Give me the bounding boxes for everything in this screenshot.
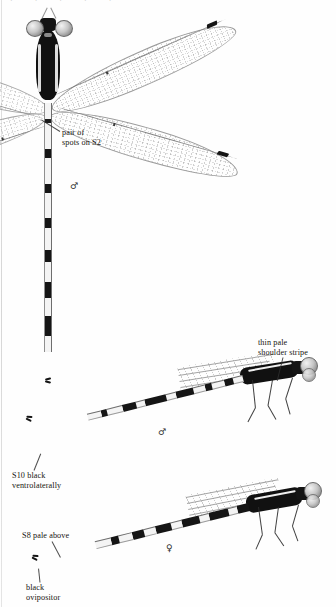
ovipositor <box>31 554 39 561</box>
specimen-dorsal-male <box>0 0 336 230</box>
abdomen-segment <box>132 529 146 540</box>
leg-front <box>285 378 293 399</box>
abdomen-segment <box>44 103 52 119</box>
leg-front <box>292 505 299 526</box>
abdomen-segment <box>44 184 52 193</box>
abdomen-segment <box>144 394 167 406</box>
illustration-plate: · · · · · <box>0 0 336 607</box>
abdomen-segment <box>155 522 172 534</box>
abdomen-segment <box>175 387 194 398</box>
leg-tarsus <box>255 535 262 550</box>
leg-middle <box>274 507 279 533</box>
leg-tarsus <box>247 408 255 423</box>
sex-symbol-male-dorsal: ♂ <box>70 181 78 191</box>
leg-tarsus <box>268 405 277 419</box>
abdomen-segment <box>95 537 112 549</box>
abdomen-segment <box>170 520 183 530</box>
sex-symbol-female-lateral: ♀ <box>166 543 173 553</box>
annotation-s10-black-ventrolaterally: S10 black ventrolaterally <box>12 471 61 490</box>
abdomen-segment <box>44 250 52 262</box>
abdomen-segment <box>44 282 52 298</box>
abdomen-dorsal <box>44 103 52 352</box>
annotation-thin-pale-shoulder-stripe: thin pale shoulder stripe <box>258 338 308 357</box>
shoulder-stripe-right <box>55 44 58 92</box>
abdomen-segment <box>44 218 52 228</box>
abdomen-segment <box>236 503 250 514</box>
abdomen-segment <box>181 515 200 527</box>
abdomen-segment <box>44 149 52 158</box>
compound-eye-right <box>55 20 73 37</box>
wing-lower-left <box>0 105 50 175</box>
abdomen-segment <box>44 228 52 250</box>
compound-eye-lateral-far <box>306 494 320 508</box>
abdomen-lateral-male <box>87 375 244 420</box>
annotation-black-ovipositor: black ovipositor <box>26 583 60 602</box>
abdomen-segment <box>211 380 225 390</box>
abdomen-segment <box>143 526 157 537</box>
pronotum-highlight <box>44 33 52 37</box>
leg-hind <box>252 380 256 408</box>
wing-membrane <box>0 105 50 175</box>
shoulder-stripe-left <box>38 44 41 92</box>
abdomen-segment <box>44 158 52 184</box>
leg-tarsus <box>285 399 290 415</box>
sex-symbol-male-lateral: ♂ <box>158 427 166 437</box>
abdomen-segment <box>193 385 206 395</box>
abdomen-segment <box>165 392 176 401</box>
abdomen-segment <box>44 262 52 282</box>
abdomen-segment <box>106 405 123 416</box>
annotation-s8-pale-above: S8 pale above <box>22 531 69 541</box>
annotation-pair-of-spots: pair of spots on S2 <box>62 128 101 147</box>
compound-eye-lateral-far <box>302 368 316 382</box>
leg-tarsus <box>292 526 298 541</box>
leg-middle <box>267 380 272 406</box>
claspers-lateral <box>25 415 33 422</box>
abdomen-segment <box>122 402 137 412</box>
abdomen-segment <box>118 532 134 543</box>
abdomen-segment <box>44 193 52 218</box>
leg-tarsus <box>274 532 284 546</box>
abdomen-segment <box>44 298 52 316</box>
abdomen-segment <box>87 410 102 420</box>
